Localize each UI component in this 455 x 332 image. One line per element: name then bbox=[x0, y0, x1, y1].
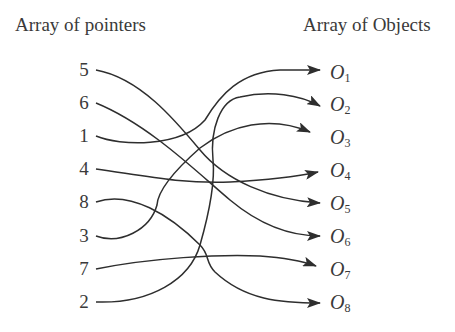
arrow-7-to-o7 bbox=[96, 256, 316, 269]
arrow-3-to-o3 bbox=[96, 123, 310, 238]
arrow-1-to-o1 bbox=[96, 70, 320, 143]
pointer-arrows-diagram bbox=[0, 0, 455, 332]
arrow-5-to-o5 bbox=[96, 70, 320, 203]
